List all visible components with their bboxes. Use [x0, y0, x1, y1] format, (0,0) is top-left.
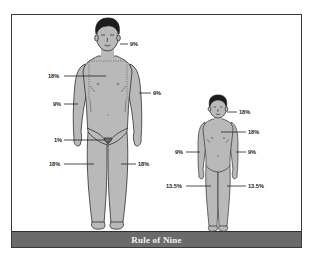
child-left-leg	[206, 165, 218, 228]
adult-left-leg	[87, 132, 107, 226]
rule-of-nines-illustration: 9% 18% 9% 9% 1% 18% 18% 18% 18% 9% 9% 13…	[0, 0, 312, 253]
child-right-arm-label: 9%	[248, 149, 256, 155]
child-left-leg-label: 13.5%	[166, 183, 182, 189]
child-left-arm-label: 9%	[175, 149, 183, 155]
child-ear-right	[225, 107, 228, 111]
adult-right-foot	[110, 222, 123, 229]
child-ear-left	[208, 107, 211, 111]
adult-ear-left	[95, 35, 99, 41]
adult-left-arm-label: 9%	[53, 101, 61, 107]
child-figure	[198, 95, 238, 231]
adult-right-leg-label: 18%	[138, 161, 149, 167]
adult-right-leg	[108, 132, 128, 226]
child-trunk	[203, 119, 233, 172]
child-right-foot	[219, 226, 228, 231]
child-head-label: 18%	[239, 109, 250, 115]
adult-trunk-label: 18%	[48, 73, 59, 79]
adult-left-foot	[91, 222, 104, 229]
adult-left-leg-label: 18%	[49, 161, 60, 167]
adult-right-arm-label: 9%	[153, 90, 161, 96]
adult-trunk	[83, 56, 132, 145]
child-right-leg-label: 13.5%	[248, 183, 264, 189]
child-right-leg	[218, 165, 230, 228]
adult-head-label: 9%	[130, 41, 138, 47]
adult-figure	[73, 18, 142, 229]
child-trunk-label: 18%	[248, 129, 259, 135]
adult-ear-right	[117, 35, 121, 41]
child-left-foot	[208, 226, 217, 231]
adult-genitals-label: 1%	[54, 137, 62, 143]
